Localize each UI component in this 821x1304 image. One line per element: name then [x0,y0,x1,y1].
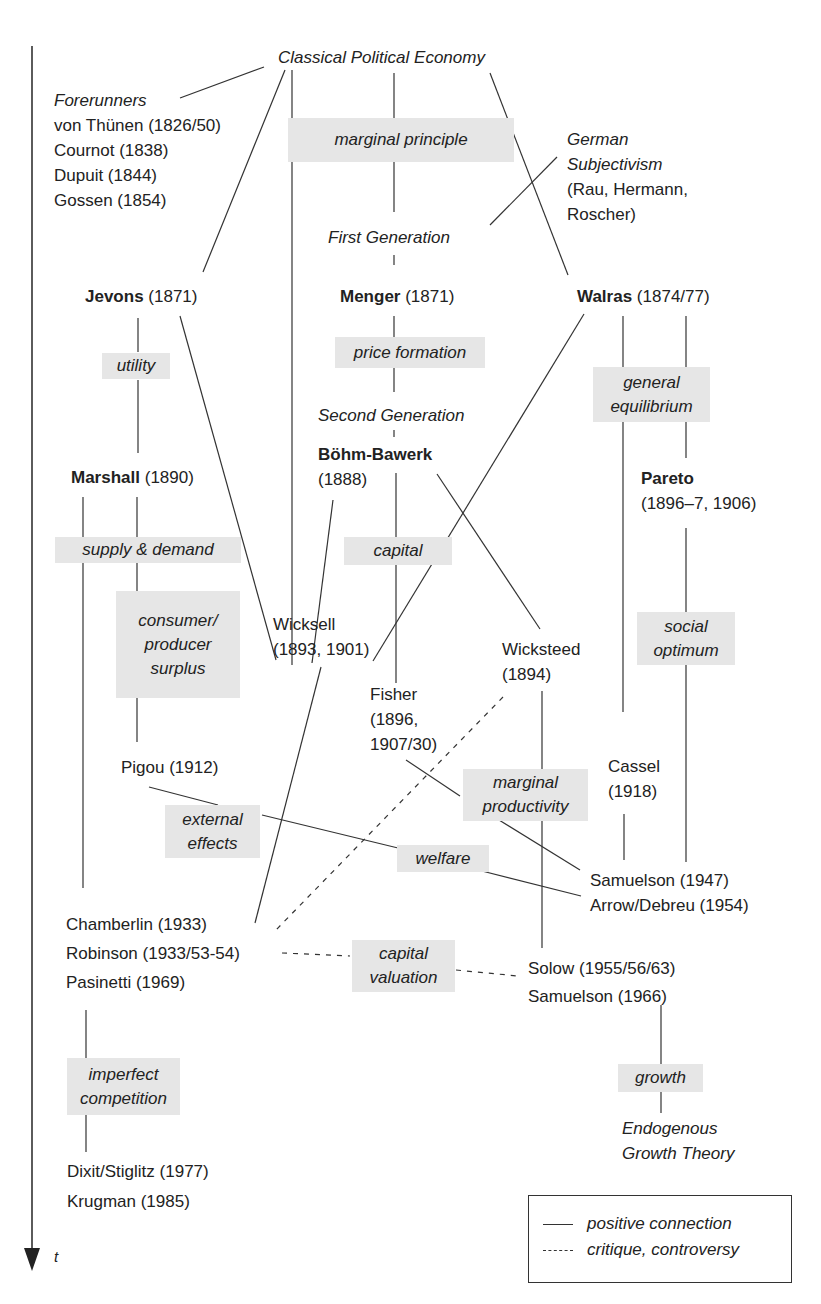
economist-dixit-stiglitz: Dixit/Stiglitz (1977) [67,1157,209,1187]
topic-general-equilibrium: general equilibrium [593,367,710,422]
topic-label: growth [635,1066,686,1090]
node-fisher: Fisher (1896, 1907/30) [370,682,437,757]
legend-critique: critique, controversy [543,1240,739,1260]
node-german-subjectivism: German Subjectivism (Rau, Hermann, Rosch… [567,127,688,227]
economist-year: (1871) [148,287,197,306]
topic-label: imperfect [89,1063,159,1087]
node-endogenous-growth-theory: Endogenous Growth Theory [622,1116,734,1166]
forerunner-item: von Thünen (1826/50) [54,113,221,138]
forerunner-item: Gossen (1854) [54,188,221,213]
topic-marginal-productivity: marginal productivity [463,769,588,821]
economist-name: Wicksell [273,612,369,637]
topic-social-optimum: social optimum [637,612,735,665]
topic-growth: growth [618,1064,703,1092]
dashed-line-icon [543,1250,573,1251]
topic-label: utility [117,354,156,378]
legend-positive-label: positive connection [587,1214,732,1234]
economist-solow: Solow (1955/56/63) [528,955,675,983]
economist-year: (1888) [318,467,432,492]
forerunners-heading: Forerunners [54,88,221,113]
topic-capital: capital [344,537,452,565]
node-pareto: Pareto (1896–7, 1906) [641,466,756,516]
topic-external-effects: external effects [165,805,260,858]
time-arrow-head [24,1248,40,1271]
german-subjectivism-line: German [567,127,688,152]
topic-label: social [664,615,707,639]
economist-year: (1896–7, 1906) [641,491,756,516]
node-walras: Walras (1874/77) [577,284,710,309]
economist-name: Wicksteed [502,637,580,662]
topic-marginal-principle: marginal principle [288,118,514,162]
legend-critique-label: critique, controversy [587,1240,739,1260]
topic-supply-demand: supply & demand [55,537,241,563]
economist-name: Böhm-Bawerk [318,442,432,467]
topic-label: general [623,371,680,395]
topic-price-formation: price formation [335,337,485,368]
topic-label: external [182,808,242,832]
economist-name: Cassel [608,754,660,779]
economist-year: 1907/30) [370,732,437,757]
economist-year: (1890) [145,468,194,487]
topic-label: capital [373,539,422,563]
german-subjectivism-line: (Rau, Hermann, [567,177,688,202]
topic-label: supply & demand [82,538,213,562]
economist-year: (1896, [370,707,437,732]
economist-year: (1874/77) [637,287,710,306]
node-pigou: Pigou (1912) [121,755,218,780]
solid-line-icon [543,1224,573,1225]
economist-arrow-debreu: Arrow/Debreu (1954) [590,893,749,918]
topic-label: consumer/ [138,609,217,633]
economist-name: Fisher [370,682,437,707]
economist-name: Marshall [71,468,140,487]
topic-label: effects [187,832,237,856]
topic-label: surplus [151,657,206,681]
node-chamberlin-robinson-pasinetti: Chamberlin (1933) Robinson (1933/53-54) … [66,910,240,997]
topic-capital-valuation: capital valuation [352,940,455,992]
topic-utility: utility [102,353,170,379]
label-first-generation: First Generation [328,225,450,250]
node-solow-samuelson: Solow (1955/56/63) Samuelson (1966) [528,955,675,1011]
node-wicksell: Wicksell (1893, 1901) [273,612,369,662]
economist-year: (1871) [405,287,454,306]
node-bohm-bawerk: Böhm-Bawerk (1888) [318,442,432,492]
node-dixit-krugman: Dixit/Stiglitz (1977) Krugman (1985) [67,1157,209,1217]
economist-krugman: Krugman (1985) [67,1187,209,1217]
topic-label: optimum [653,639,718,663]
endogenous-line: Endogenous [622,1116,734,1141]
economist-pasinetti: Pasinetti (1969) [66,968,240,997]
legend-positive: positive connection [543,1214,732,1234]
economist-name: Menger [340,287,400,306]
node-classical-political-economy: Classical Political Economy [278,45,485,70]
topic-label: valuation [369,966,437,990]
node-samuelson-arrow-debreu: Samuelson (1947) Arrow/Debreu (1954) [590,868,749,918]
node-menger: Menger (1871) [340,284,454,309]
node-jevons: Jevons (1871) [85,284,197,309]
endogenous-line: Growth Theory [622,1141,734,1166]
economist-year: (1918) [608,779,660,804]
economist-samuelson-1947: Samuelson (1947) [590,868,749,893]
legend: positive connection critique, controvers… [528,1195,792,1283]
topic-label: equilibrium [610,395,692,419]
topic-label: productivity [483,795,569,819]
economist-name: Walras [577,287,632,306]
economist-name: Jevons [85,287,144,306]
topic-label: competition [80,1087,167,1111]
topic-consumer-producer-surplus: consumer/ producer surplus [116,591,240,698]
time-axis-label: t [54,1248,58,1265]
topic-welfare: welfare [397,845,489,872]
economist-name: Pareto [641,466,756,491]
economics-history-diagram: Classical Political Economy Forerunners … [0,0,821,1304]
node-cassel: Cassel (1918) [608,754,660,804]
economist-year: (1893, 1901) [273,637,369,662]
economist-year: (1894) [502,662,580,687]
economist-robinson: Robinson (1933/53-54) [66,939,240,968]
label-second-generation: Second Generation [318,403,465,428]
economist-samuelson-1966: Samuelson (1966) [528,983,675,1011]
topic-label: marginal [493,771,558,795]
german-subjectivism-line: Subjectivism [567,152,688,177]
german-subjectivism-line: Roscher) [567,202,688,227]
topic-label: price formation [354,341,466,365]
node-marshall: Marshall (1890) [71,465,194,490]
topic-label: producer [144,633,211,657]
node-wicksteed: Wicksteed (1894) [502,637,580,687]
